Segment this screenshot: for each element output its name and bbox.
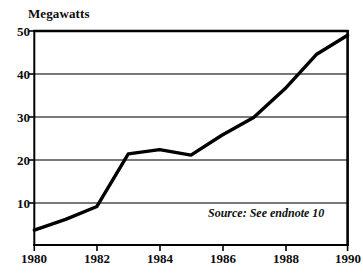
chart-figure: Megawatts 50 40 30 20 10 1980 1982 1984 …: [0, 0, 363, 278]
x-tick-label-1982: 1982: [71, 252, 123, 265]
x-tick-label-1980: 1980: [8, 252, 60, 265]
y-tick-label-10: 10: [2, 197, 30, 210]
x-tick-label-1984: 1984: [134, 252, 186, 265]
y-tick-label-40: 40: [2, 68, 30, 81]
chart-plot-svg: [0, 0, 363, 278]
y-tick-label-50: 50: [2, 25, 30, 38]
source-annotation: Source: See endnote 10: [208, 206, 324, 221]
x-tick-label-1986: 1986: [197, 252, 249, 265]
x-tick-label-1990: 1990: [322, 252, 363, 265]
gridlines: [34, 74, 348, 203]
y-tick-label-20: 20: [2, 154, 30, 167]
x-tick-label-1988: 1988: [260, 252, 312, 265]
y-axis-title: Megawatts: [28, 6, 90, 22]
data-series-line: [34, 35, 347, 230]
y-tick-label-30: 30: [2, 111, 30, 124]
